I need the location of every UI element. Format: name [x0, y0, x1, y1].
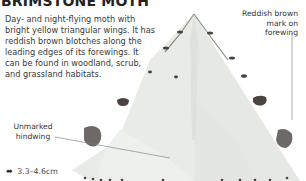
hindwing-label: Unmarked hindwing: [8, 122, 58, 141]
wingspan-size: ⬌ 3.3–4.6cm: [6, 167, 58, 176]
forewing-mark-label: Reddish brown mark on forewing: [238, 9, 298, 38]
wingspan-value: 3.3–4.6cm: [17, 167, 58, 176]
double-arrow-icon: ⬌: [6, 167, 13, 176]
